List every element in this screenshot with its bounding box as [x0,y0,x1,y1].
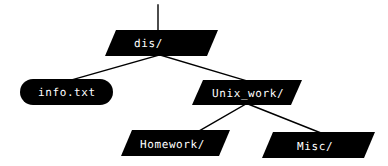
edge-dis-unixwork [160,55,247,81]
tree-graphics [0,0,388,166]
node-shape-misc[interactable] [262,132,375,158]
node-shape-homework[interactable] [121,130,230,156]
directory-tree-diagram: dis/info.txtUnix_work/Homework/Misc/ [0,0,388,166]
edge-unixwork-home [199,104,246,131]
edge-dis-info [68,55,159,81]
node-group [20,30,375,158]
node-shape-info_txt[interactable] [20,79,113,105]
edge-unixwork-misc [248,104,321,133]
node-shape-dis[interactable] [105,30,218,56]
node-shape-unix_work[interactable] [192,80,302,105]
edge-group [68,5,321,133]
